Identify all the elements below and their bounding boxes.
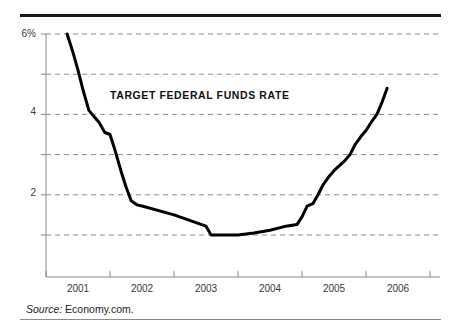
x-tick-label-2006: 2006 bbox=[373, 283, 423, 294]
figure-container: 6% 4 2 2001 2002 2003 2004 2005 2006 TAR… bbox=[0, 0, 467, 331]
x-tick-label-2003: 2003 bbox=[181, 283, 231, 294]
x-tick-label-2004: 2004 bbox=[245, 283, 295, 294]
y-tick-label-6: 6% bbox=[12, 28, 36, 39]
plot-area: 6% 4 2 2001 2002 2003 2004 2005 2006 TAR… bbox=[0, 0, 467, 331]
y-tick-label-4: 4 bbox=[12, 106, 36, 117]
line-chart-svg bbox=[0, 0, 467, 331]
x-axis-ticks bbox=[41, 34, 430, 277]
y-tick-label-2: 2 bbox=[12, 187, 36, 198]
axis-lines bbox=[46, 34, 440, 277]
x-tick-label-2005: 2005 bbox=[309, 283, 359, 294]
data-series-line bbox=[67, 34, 387, 235]
chart-title: TARGET FEDERAL FUNDS RATE bbox=[110, 89, 290, 101]
x-tick-label-2002: 2002 bbox=[117, 283, 167, 294]
source-note: Source: Economy.com. bbox=[26, 303, 134, 315]
source-label: Source: bbox=[26, 303, 62, 315]
gridlines bbox=[46, 34, 440, 235]
bottom-divider-rule bbox=[20, 319, 441, 320]
x-tick-label-2001: 2001 bbox=[53, 283, 103, 294]
source-value: Economy.com. bbox=[65, 303, 134, 315]
